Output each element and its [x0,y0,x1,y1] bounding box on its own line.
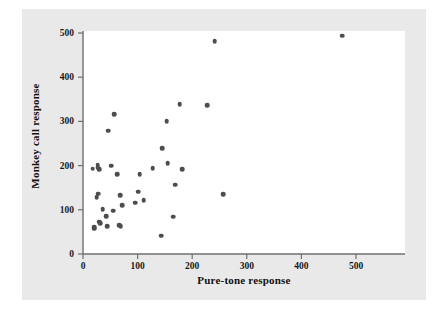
data-point [105,224,110,229]
data-point [96,192,101,197]
data-point [91,166,96,171]
data-point [136,189,141,194]
data-point [221,192,226,197]
data-point [92,227,97,232]
data-point [177,102,182,107]
scatter-plot-figure: 0 100 200 300 400 500 0 100 200 300 400 … [0,0,446,319]
data-point [100,207,105,212]
data-point [97,167,102,172]
data-point [115,172,120,177]
data-point [171,215,176,220]
data-point [159,234,164,239]
data-point [180,167,185,172]
data-point [137,172,142,177]
data-point [141,198,146,203]
data-point [112,112,117,117]
data-point [164,119,169,124]
data-point [205,103,210,108]
data-points-layer [0,0,446,319]
data-point [212,39,217,44]
data-point [111,208,116,213]
data-point [340,33,345,38]
data-point [118,224,123,229]
data-point [104,214,109,219]
data-point [109,163,114,168]
data-point [106,128,111,133]
data-point [98,221,103,226]
data-point [120,203,125,208]
data-point [173,182,178,187]
data-point [151,166,156,171]
data-point [160,146,165,151]
data-point [165,161,170,166]
data-point [133,200,138,205]
data-point [118,193,123,198]
